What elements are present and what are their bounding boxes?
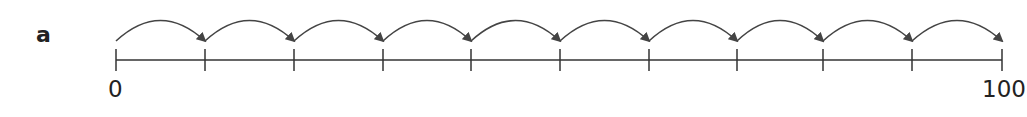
jump-arrow xyxy=(205,21,294,42)
jump-arrow xyxy=(471,21,560,42)
jump-arrow xyxy=(294,21,383,42)
jump-arrow xyxy=(649,21,737,42)
number-line xyxy=(0,0,1027,117)
start-label: 0 xyxy=(108,76,123,102)
jump-arrow xyxy=(912,21,1002,42)
jump-arrow xyxy=(737,21,823,42)
jump-arrow xyxy=(560,21,649,42)
jump-arrows xyxy=(116,21,1002,42)
jump-arrow xyxy=(823,21,912,42)
jump-arrow xyxy=(116,21,205,42)
end-label: 100 xyxy=(982,76,1026,102)
jump-arrow xyxy=(383,21,471,42)
